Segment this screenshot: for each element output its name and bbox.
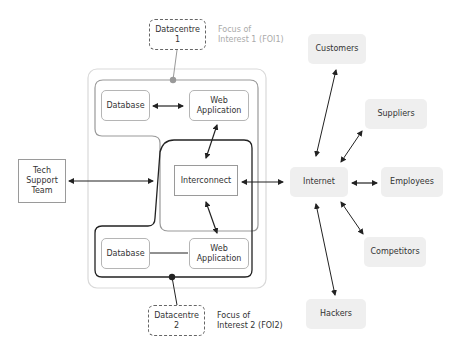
database-bottom-node[interactable]: Database bbox=[101, 238, 150, 269]
hackers-label: Hackers bbox=[320, 309, 352, 319]
datacentre-2-node[interactable]: Datacentre 2 bbox=[148, 305, 205, 336]
competitors-label: Competitors bbox=[370, 247, 419, 257]
foi2-label: Focus of Interest 2 (FOI2) bbox=[217, 311, 283, 331]
employees-node[interactable]: Employees bbox=[381, 167, 443, 197]
webapp-top-node[interactable]: Web Application bbox=[189, 90, 249, 121]
suppliers-label: Suppliers bbox=[377, 109, 414, 119]
tech-support-node[interactable]: Tech Support Team bbox=[18, 159, 66, 203]
datacentre-1-label: Datacentre 1 bbox=[155, 25, 200, 45]
foi1-label: Focus of Interest 1 (FOI1) bbox=[218, 25, 284, 45]
datacentre-2-label: Datacentre 2 bbox=[154, 311, 199, 331]
customers-label: Customers bbox=[315, 44, 358, 54]
tech-support-label: Tech Support Team bbox=[26, 166, 58, 196]
datacentre-1-node[interactable]: Datacentre 1 bbox=[149, 19, 206, 50]
database-bottom-label: Database bbox=[106, 249, 144, 259]
customers-node[interactable]: Customers bbox=[308, 34, 366, 64]
database-top-node[interactable]: Database bbox=[101, 90, 150, 121]
internet-node[interactable]: Internet bbox=[290, 167, 348, 197]
database-top-label: Database bbox=[106, 101, 144, 111]
interconnect-node[interactable]: Interconnect bbox=[174, 165, 238, 196]
foi1-anchor-dot bbox=[170, 77, 176, 83]
employees-label: Employees bbox=[390, 177, 434, 187]
suppliers-node[interactable]: Suppliers bbox=[365, 99, 427, 129]
webapp-bottom-node[interactable]: Web Application bbox=[189, 238, 249, 269]
internet-label: Internet bbox=[303, 177, 335, 187]
foi2-anchor-dot bbox=[169, 274, 175, 280]
webapp-bottom-label: Web Application bbox=[197, 244, 242, 264]
hackers-node[interactable]: Hackers bbox=[306, 299, 366, 329]
interconnect-label: Interconnect bbox=[181, 176, 232, 186]
competitors-node[interactable]: Competitors bbox=[364, 237, 426, 267]
webapp-top-label: Web Application bbox=[197, 96, 242, 116]
